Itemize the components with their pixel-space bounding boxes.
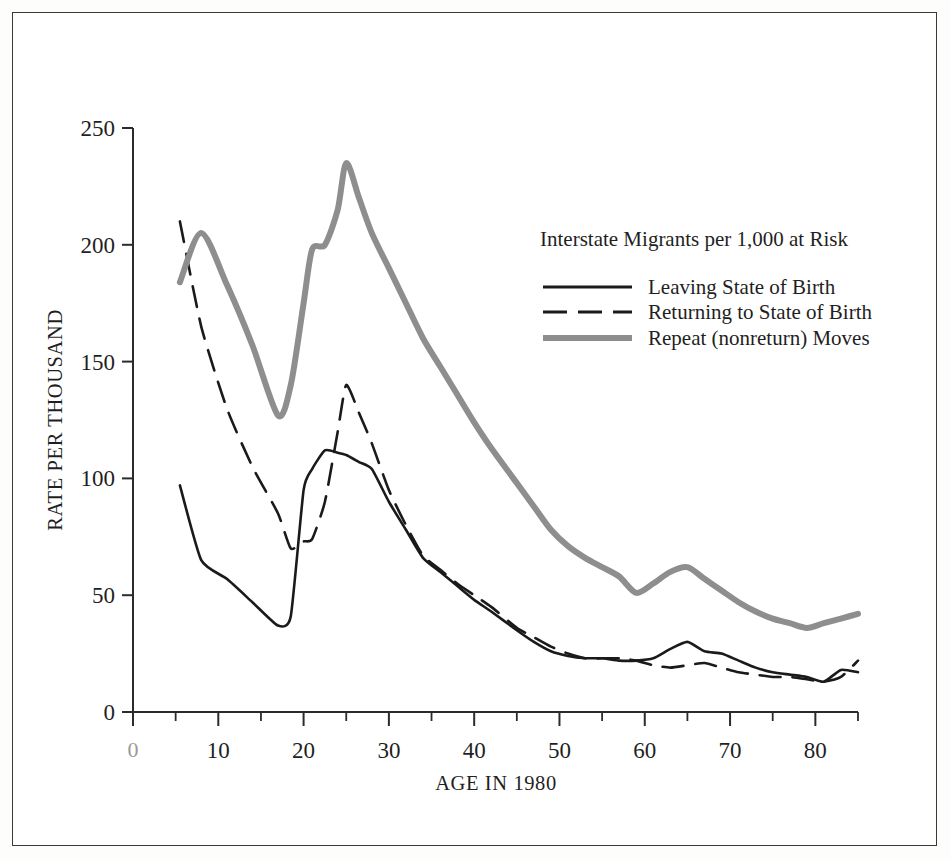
y-axis-tick-label: 50 <box>92 583 115 608</box>
legend-title: Interstate Migrants per 1,000 at Risk <box>540 227 848 251</box>
y-axis-tick-label: 150 <box>81 350 116 375</box>
x-axis-tick-label: 50 <box>548 738 571 763</box>
x-axis-tick-label: 40 <box>463 738 486 763</box>
x-axis-origin-label: 0 <box>128 737 139 762</box>
y-axis-tick-label: 250 <box>81 116 116 141</box>
legend-label-repeat-nonreturn-moves: Repeat (nonreturn) Moves <box>648 326 870 350</box>
x-axis-ticks <box>133 712 858 726</box>
legend-label-leaving-state-of-birth: Leaving State of Birth <box>648 275 836 299</box>
y-axis-tick-label: 100 <box>81 466 116 491</box>
y-axis-title: RATE PER THOUSAND <box>44 309 66 531</box>
y-axis-tick-label: 0 <box>104 700 116 725</box>
x-axis-tick-label: 80 <box>804 738 827 763</box>
x-axis-tick-label: 20 <box>292 738 315 763</box>
y-axis-tick-labels: 050100150200250 <box>81 116 116 725</box>
chart-axes <box>133 128 858 712</box>
chart-legend: Interstate Migrants per 1,000 at Risk Le… <box>540 227 872 350</box>
figure-page: 050100150200250 1020304050607080 RATE PE… <box>0 0 951 860</box>
y-axis-ticks <box>122 128 133 712</box>
x-axis-tick-labels: 1020304050607080 <box>207 738 827 763</box>
x-axis-title: AGE IN 1980 <box>435 772 557 794</box>
x-axis-tick-label: 10 <box>207 738 230 763</box>
y-axis-tick-label: 200 <box>81 233 116 258</box>
x-axis-tick-label: 70 <box>719 738 742 763</box>
line-chart: 050100150200250 1020304050607080 RATE PE… <box>0 0 951 860</box>
x-axis-tick-label: 30 <box>377 738 400 763</box>
x-axis-tick-label: 60 <box>633 738 656 763</box>
legend-label-returning-to-state-of-birth: Returning to State of Birth <box>648 300 872 324</box>
